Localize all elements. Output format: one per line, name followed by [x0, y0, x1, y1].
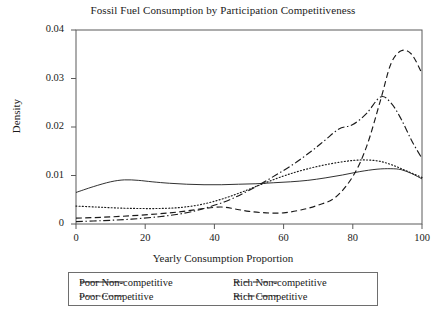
chart-legend: Poor Non-competitiveRich Non-competitive…: [68, 272, 378, 306]
y-tick-label: 0.04: [24, 23, 64, 34]
legend-swatch-solid: [79, 277, 125, 287]
x-tick-label: 0: [56, 232, 96, 243]
y-tick-label: 0: [24, 217, 64, 228]
x-tick-label: 80: [333, 232, 373, 243]
y-tick-label: 0.03: [24, 72, 64, 83]
x-tick-label: 60: [264, 232, 304, 243]
legend-entry-dotted: Poor Competitive: [79, 291, 153, 302]
legend-entry-solid: Poor Non-competitive: [79, 277, 173, 288]
y-tick-label: 0.02: [24, 120, 64, 131]
legend-entry-dashed: Rich Non-competitive: [233, 277, 327, 288]
legend-swatch-dashdot: [233, 291, 279, 301]
chart-figure: Fossil Fuel Consumption by Participation…: [0, 0, 446, 320]
series-line-2: [76, 50, 422, 218]
x-tick-label: 100: [402, 232, 442, 243]
x-tick-label: 20: [125, 232, 165, 243]
legend-swatch-dashed: [233, 277, 279, 287]
y-tick-label: 0.01: [24, 169, 64, 180]
series-line-3: [76, 96, 422, 221]
plot-frame: [76, 30, 422, 224]
x-tick-label: 40: [194, 232, 234, 243]
legend-swatch-dotted: [79, 291, 125, 301]
legend-entry-dashdot: Rich Competitive: [233, 291, 307, 302]
